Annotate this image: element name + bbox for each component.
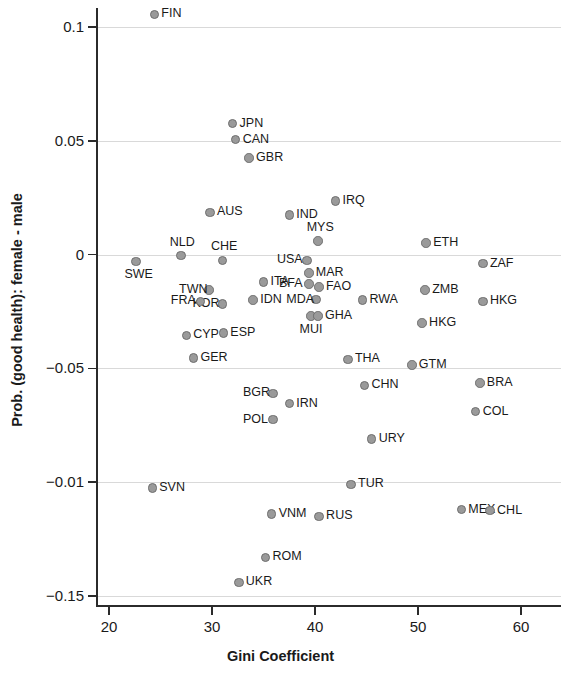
data-point[interactable] <box>313 236 323 246</box>
data-point-label: ESP <box>230 325 255 339</box>
data-point-label: CYP <box>193 327 219 341</box>
gridline-y <box>97 141 561 142</box>
y-tick-label: 0.05 <box>0 132 84 149</box>
data-point-label: VNM <box>279 506 307 520</box>
data-point-label: RUS <box>326 508 352 522</box>
y-tick-label: −0.05 <box>0 359 84 376</box>
data-point[interactable] <box>259 277 269 287</box>
gridline-y <box>97 368 561 369</box>
data-point[interactable] <box>219 328 229 338</box>
data-point-label: AUS <box>217 204 243 218</box>
data-point-label: JPN <box>240 116 264 130</box>
data-point-label: SVN <box>159 480 185 494</box>
data-point[interactable] <box>218 256 228 266</box>
y-axis-line <box>96 8 98 606</box>
data-point-label: GTM <box>419 357 447 371</box>
y-tick-label: −0.15 <box>0 587 84 604</box>
data-point-label: CHE <box>211 239 237 253</box>
data-point-label: HKG <box>490 293 517 307</box>
data-point[interactable] <box>478 297 488 307</box>
x-tick-mark <box>108 606 110 615</box>
x-tick-mark <box>520 606 522 615</box>
data-point-label: ROM <box>273 549 302 563</box>
data-point[interactable] <box>331 196 341 206</box>
x-axis-line <box>96 605 561 607</box>
data-point[interactable] <box>314 512 324 522</box>
y-tick-mark <box>88 368 97 370</box>
y-tick-mark <box>88 26 97 28</box>
gridline-y <box>97 596 561 597</box>
data-point[interactable] <box>205 208 215 218</box>
data-point[interactable] <box>182 331 192 341</box>
data-point-label: MYS <box>307 220 334 234</box>
data-point-label: USA <box>277 252 303 266</box>
data-point[interactable] <box>189 353 199 363</box>
data-point-label: URY <box>379 431 405 445</box>
y-axis-title-text: Prob. (good health): female - male <box>9 193 25 427</box>
x-tick-label: 20 <box>84 618 134 635</box>
gridline-y <box>97 27 561 28</box>
data-point[interactable] <box>285 210 295 220</box>
data-point-label: CAN <box>243 132 269 146</box>
data-point-label: BRA <box>487 375 513 389</box>
data-point-label: FAO <box>326 279 351 293</box>
data-point-label: TUR <box>358 476 384 490</box>
data-point[interactable] <box>131 257 141 267</box>
data-point-label: MAR <box>316 265 344 279</box>
y-tick-mark <box>88 481 97 483</box>
data-point-label: FIN <box>161 6 181 20</box>
data-point[interactable] <box>148 483 158 493</box>
x-tick-mark <box>314 606 316 615</box>
data-point-label: COL <box>483 404 509 418</box>
data-point[interactable] <box>358 295 368 305</box>
data-point[interactable] <box>304 268 314 278</box>
data-point[interactable] <box>421 238 431 248</box>
data-point-label: CHL <box>497 503 522 517</box>
data-point-label: FRA <box>171 293 196 307</box>
x-tick-mark <box>211 606 213 615</box>
data-point[interactable] <box>314 282 324 292</box>
data-point[interactable] <box>367 434 377 444</box>
x-tick-label: 50 <box>393 618 443 635</box>
x-tick-label: 40 <box>290 618 340 635</box>
x-tick-mark <box>417 606 419 615</box>
data-point-label: IND <box>296 207 318 221</box>
data-point[interactable] <box>478 259 488 269</box>
y-tick-mark <box>88 254 97 256</box>
data-point-label: BFA <box>279 276 303 290</box>
data-point-label: GER <box>200 350 227 364</box>
y-tick-mark <box>88 595 97 597</box>
data-point-label: NLD <box>170 235 195 249</box>
y-tick-mark <box>88 140 97 142</box>
data-point-label: ETH <box>433 235 458 249</box>
data-point-label: MUI <box>299 322 322 336</box>
data-point-label: BGR <box>243 385 270 399</box>
data-point[interactable] <box>302 256 312 266</box>
data-point-label: GBR <box>256 150 283 164</box>
data-point-label: IRQ <box>343 193 365 207</box>
data-point[interactable] <box>313 311 323 321</box>
data-point-label: HKG <box>429 315 456 329</box>
y-axis-title: Prob. (good health): female - male <box>0 0 34 620</box>
data-point-label: ZMB <box>432 282 458 296</box>
data-point-label: GHA <box>325 308 352 322</box>
data-point-label: ZAF <box>490 256 514 270</box>
data-point-label: IRN <box>296 396 318 410</box>
x-tick-label: 30 <box>187 618 237 635</box>
data-point[interactable] <box>234 578 244 588</box>
data-point-label: SWE <box>124 267 152 281</box>
data-point[interactable] <box>417 318 427 328</box>
data-point-label: MDA <box>286 292 314 306</box>
data-point[interactable] <box>420 285 430 295</box>
data-point-label: POL <box>243 412 268 426</box>
scatter-plot: Prob. (good health): female - male Gini … <box>0 0 561 684</box>
data-point[interactable] <box>346 480 356 490</box>
data-point[interactable] <box>248 295 258 305</box>
data-point[interactable] <box>475 378 485 388</box>
x-axis-title: Gini Coefficient <box>0 648 561 664</box>
data-point[interactable] <box>304 279 314 289</box>
data-point[interactable] <box>343 355 353 365</box>
data-point[interactable] <box>244 153 254 163</box>
data-point[interactable] <box>407 360 417 370</box>
data-point[interactable] <box>268 415 278 425</box>
